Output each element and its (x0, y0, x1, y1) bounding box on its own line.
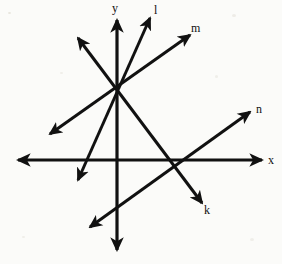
line-label-l: l (154, 4, 157, 16)
line-k (78, 38, 202, 203)
geometry-diagram: y l m n x k (0, 0, 282, 264)
line-l (78, 18, 150, 180)
line-label-n: n (256, 103, 262, 115)
line-label-m: m (191, 22, 200, 34)
axis-label-x: x (268, 154, 274, 166)
line-n (90, 112, 250, 227)
axis-label-y: y (112, 2, 118, 14)
line-label-k: k (204, 204, 210, 216)
diagram-canvas (0, 0, 282, 264)
